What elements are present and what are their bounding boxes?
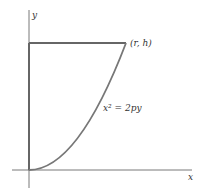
x-axis-label: x <box>188 172 193 182</box>
y-axis-label: y <box>31 10 38 20</box>
point-label: (r, h) <box>130 38 152 48</box>
parabola-diagram: y x (r, h) x² = 2py <box>0 0 204 191</box>
curve-equation-label: x² = 2py <box>103 103 142 113</box>
